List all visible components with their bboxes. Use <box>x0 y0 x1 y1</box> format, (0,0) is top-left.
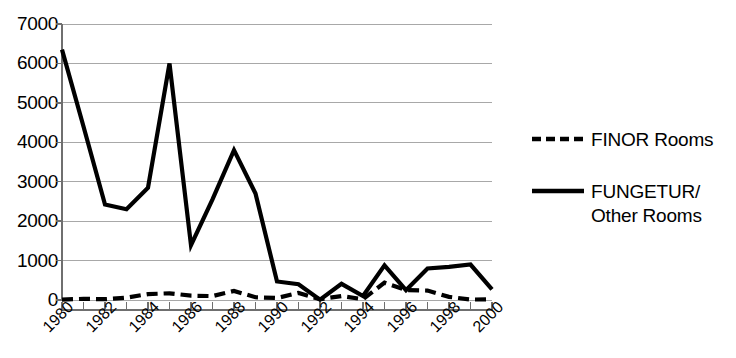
legend-label-line1: FUNGETUR/ <box>591 181 700 202</box>
legend-item-fungetur-other-rooms: FUNGETUR/ Other Rooms <box>531 180 736 228</box>
x-tick-label: 1982 <box>83 299 119 335</box>
x-tick-label: 1992 <box>298 299 334 335</box>
x-tick-label: 1990 <box>255 299 291 335</box>
x-tick-label: 1998 <box>427 299 463 335</box>
x-tick-label: 2000 <box>470 299 506 335</box>
legend-label-fungetur-other-rooms: FUNGETUR/ Other Rooms <box>591 180 702 228</box>
legend-swatch-solid-line <box>531 180 585 200</box>
x-tick-label: 1988 <box>212 299 248 335</box>
legend-label-line2: Other Rooms <box>591 205 702 226</box>
x-tick-label: 1986 <box>169 299 205 335</box>
chart-legend: FINOR Rooms FUNGETUR/ Other Rooms <box>531 128 736 256</box>
x-tick-label: 1984 <box>126 299 162 335</box>
x-tick-label: 1994 <box>341 299 377 335</box>
chart-figure: 70006000500040003000200010000 1980198219… <box>0 0 736 358</box>
x-tick-label: 1996 <box>384 299 420 335</box>
legend-label-finor-rooms: FINOR Rooms <box>591 128 713 152</box>
x-tick-label: 1980 <box>40 299 76 335</box>
legend-swatch-dashed-line <box>531 128 585 148</box>
legend-item-finor-rooms: FINOR Rooms <box>531 128 736 152</box>
